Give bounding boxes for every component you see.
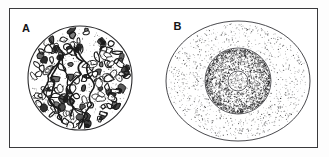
cell-nucleus-drawing <box>164 9 318 146</box>
panel-b-artwork <box>164 9 318 147</box>
panel-a-artwork <box>10 9 164 147</box>
figure-root: A B <box>0 0 329 157</box>
panel-b: B <box>164 9 318 147</box>
panel-a: A <box>10 9 164 147</box>
cellular-tissue-drawing <box>10 9 164 146</box>
figure-frame: A B <box>9 8 318 148</box>
